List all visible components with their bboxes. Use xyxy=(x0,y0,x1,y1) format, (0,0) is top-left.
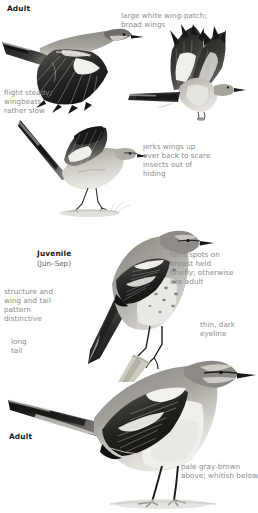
annotation-plumage: pale gray-brown above; whitish below xyxy=(181,462,258,480)
annotation-breast-spots: faint spots on breast held briefly; othe… xyxy=(170,250,258,286)
adult-perched-on-ground xyxy=(6,352,258,512)
tail-feathers xyxy=(128,92,180,108)
eye xyxy=(219,371,223,375)
field-guide-plate: Adult xyxy=(0,0,258,513)
bill xyxy=(234,88,246,92)
annotation-eyeline: thin, dark eyeline xyxy=(200,320,258,338)
ground-shadow xyxy=(114,499,210,509)
adult-wing-flashing-display xyxy=(18,116,148,220)
age-label-juvenile: Juvenile xyxy=(37,249,71,258)
bill xyxy=(200,241,214,246)
annotation-flight: flight steady; wingbeats rather slow xyxy=(4,88,79,115)
bill xyxy=(237,373,256,379)
annotation-wing-flash: jerks wings up over back to scare insect… xyxy=(143,142,249,178)
annotation-structure: structure and wing and tail pattern dist… xyxy=(4,287,80,323)
age-label-adult-bottom: Adult xyxy=(9,432,32,441)
head xyxy=(114,148,136,160)
eye xyxy=(227,86,229,88)
adult-in-flight-front-view xyxy=(128,24,258,122)
eye xyxy=(187,239,190,242)
tail-feathers xyxy=(18,120,70,180)
head xyxy=(214,84,234,96)
eye xyxy=(123,33,126,36)
eye xyxy=(129,152,131,154)
age-sublabel-juvenile-months: (Jun–Sep) xyxy=(37,259,71,268)
